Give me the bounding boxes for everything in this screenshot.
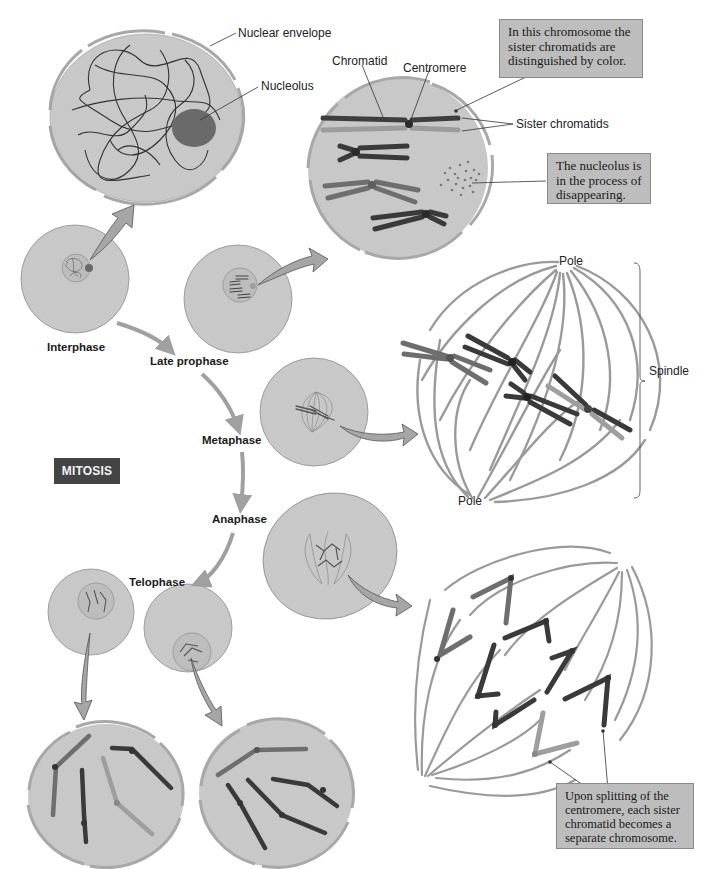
mitosis-diagram: Nuclear envelope Nucleolus Chromatid Cen… [0,0,707,869]
note-line: centromere, each sister [565,803,685,817]
label-nuclear-envelope: Nuclear envelope [238,26,331,40]
label-chromatid: Chromatid [332,54,387,68]
anaphase-chromosomes [440,578,608,754]
spindle-fibers [415,547,652,796]
phase-metaphase: Metaphase [202,434,261,446]
arrow-interphase-to-prophase [117,323,170,350]
label-pole-top: Pole [559,254,583,268]
label-spindle: Spindle [649,364,689,378]
note-nucleolus-disappearing: The nucleolus is in the process of disap… [547,153,651,204]
interphase-nucleus-detail [50,31,244,204]
anaphase-cell [242,471,418,641]
note-sister-color: In this chromosome the sister chromatids… [499,19,643,78]
note-line: in the process of [556,174,642,189]
note-centromere-split: Upon splitting of the centromere, each s… [556,783,694,849]
mitosis-badge: MITOSIS [54,458,120,484]
anaphase-detail [415,547,652,796]
phase-telophase: Telophase [129,576,185,588]
note-line: Upon splitting of the [565,789,685,803]
label-nucleolus: Nucleolus [261,79,314,93]
telophase-daughter-right [199,719,354,868]
phase-interphase: Interphase [47,341,105,353]
phase-late-prophase: Late prophase [150,355,229,367]
arrow-metaphase-to-anaphase [241,452,243,506]
phase-anaphase: Anaphase [212,513,267,525]
metaphase-cell [260,358,368,466]
note-line: distinguished by color. [508,54,634,69]
note-line: In this chromosome the [508,25,634,40]
telophase-cell-left [48,569,134,655]
note-line: The nucleolus is [556,159,642,174]
spindle-brace [634,263,645,498]
metaphase-chromosomes [403,336,630,438]
note-line: chromatid becomes a [565,817,685,831]
telophase-daughter-left [28,722,184,868]
centromeres [434,575,611,757]
label-sister-chromatids: Sister chromatids [516,117,609,131]
interphase-cell [21,225,129,333]
note-line: separate chromosome. [565,831,685,845]
spindle-fibers [417,262,660,502]
label-pole-bottom: Pole [458,494,482,508]
late-prophase-cell [184,245,292,353]
arrow-anaphase-to-telophase [198,533,233,583]
telophase-cell-right [144,584,232,672]
arrow-prophase-to-metaphase [202,374,238,428]
label-centromere: Centromere [403,61,466,75]
note-line: disappearing. [556,188,642,203]
metaphase-spindle-detail [403,262,660,502]
note-line: sister chromatids are [508,40,634,55]
prophase-nucleus-detail [308,78,493,259]
